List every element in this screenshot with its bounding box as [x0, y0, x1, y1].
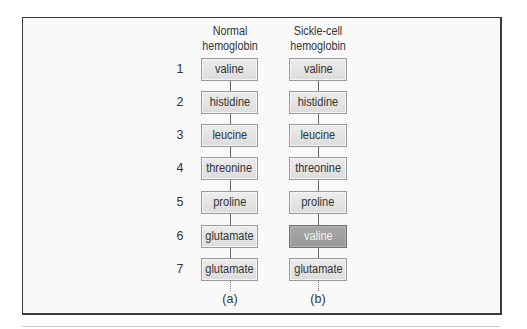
amino-acid-label: glutamate — [294, 259, 342, 280]
position-number: 7 — [172, 258, 188, 281]
amino-acid-label: leucine — [212, 125, 247, 146]
amino-acid-normal: glutamate — [201, 258, 258, 281]
amino-acid-normal: threonine — [201, 157, 258, 180]
amino-acid-label: valine — [304, 59, 333, 80]
position-number: 4 — [172, 157, 188, 180]
chain-continues-sickle — [318, 281, 319, 291]
amino-acid-sickle: threonine — [289, 157, 347, 180]
amino-acid-normal: glutamate — [201, 225, 258, 248]
figure-frame — [22, 17, 502, 315]
amino-acid-label: histidine — [298, 92, 338, 113]
amino-acid-sickle: histidine — [289, 91, 347, 114]
amino-acid-label: threonine — [207, 158, 253, 179]
amino-acid-label: valine — [215, 59, 244, 80]
amino-acid-sickle: proline — [289, 191, 347, 214]
header-sickle-line1: Sickle-cell — [266, 24, 369, 39]
chain-continues-normal — [230, 281, 231, 291]
amino-acid-sickle: valine — [289, 58, 347, 81]
amino-acid-label: threonine — [295, 158, 341, 179]
position-number: 2 — [172, 91, 188, 114]
header-sickle-line2: hemoglobin — [266, 39, 369, 54]
amino-acid-sickle: glutamate — [289, 258, 347, 281]
label-a: (a) — [210, 292, 250, 307]
bottom-rule — [22, 326, 500, 327]
amino-acid-label: glutamate — [205, 226, 253, 247]
position-number: 6 — [172, 225, 188, 248]
amino-acid-normal: histidine — [201, 91, 258, 114]
amino-acid-normal: valine — [201, 58, 258, 81]
amino-acid-label: histidine — [209, 92, 249, 113]
position-number: 3 — [172, 124, 188, 147]
amino-acid-label: valine — [304, 226, 333, 247]
amino-acid-sickle: leucine — [289, 124, 347, 147]
amino-acid-label: glutamate — [205, 259, 253, 280]
amino-acid-sickle-mutated: valine — [289, 225, 347, 248]
label-b: (b) — [298, 292, 338, 307]
position-number: 5 — [172, 191, 188, 214]
amino-acid-label: leucine — [301, 125, 336, 146]
amino-acid-normal: proline — [201, 191, 258, 214]
amino-acid-label: proline — [301, 192, 334, 213]
amino-acid-normal: leucine — [201, 124, 258, 147]
amino-acid-label: proline — [213, 192, 246, 213]
position-number: 1 — [172, 58, 188, 81]
header-sickle: Sickle-cell hemoglobin — [266, 24, 369, 54]
